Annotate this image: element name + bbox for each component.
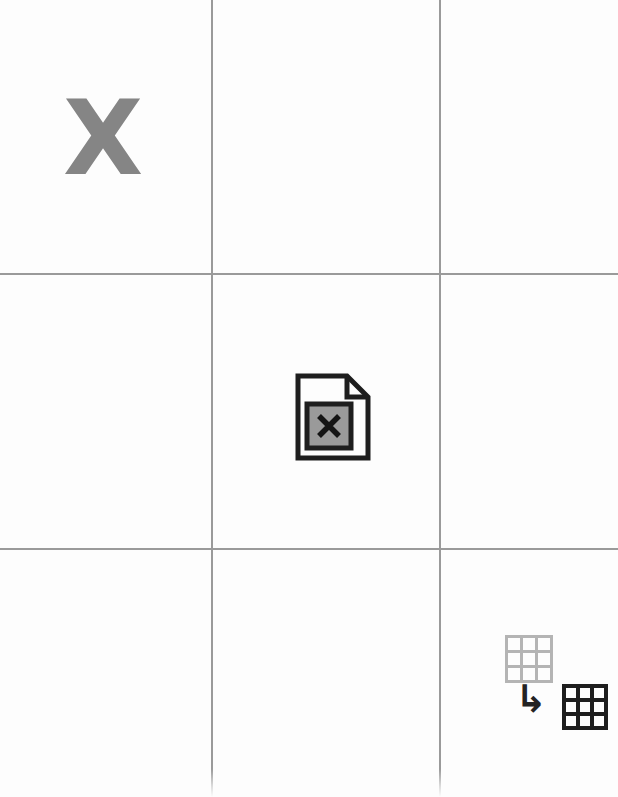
grid-3x3-light-icon xyxy=(505,635,553,683)
grid-transform-group: ↳ xyxy=(503,633,611,731)
grid-cell xyxy=(580,716,590,726)
arrow-down-right-icon: ↳ xyxy=(515,680,559,718)
grid-canvas: X ↳ xyxy=(0,0,618,797)
document-with-x-icon xyxy=(294,372,372,462)
grid-cell xyxy=(538,638,550,650)
grid-cell xyxy=(566,702,576,712)
grid-cell xyxy=(538,653,550,665)
grid-cell xyxy=(508,653,520,665)
grid-3x3-dark-icon xyxy=(562,684,608,730)
grid-cell xyxy=(594,702,604,712)
grid-cell xyxy=(508,638,520,650)
grid-line-vertical-2 xyxy=(439,0,441,797)
grid-cell xyxy=(523,638,535,650)
grid-cell xyxy=(580,702,590,712)
grid-cell xyxy=(594,688,604,698)
grid-line-horizontal-1 xyxy=(0,273,618,275)
grid-cell xyxy=(580,688,590,698)
grid-cell xyxy=(566,688,576,698)
grid-cell xyxy=(523,653,535,665)
grid-line-vertical-1 xyxy=(211,0,213,797)
grid-line-horizontal-2 xyxy=(0,548,618,550)
grid-cell xyxy=(594,716,604,726)
grid-cell xyxy=(566,716,576,726)
letter-x-glyph: X xyxy=(60,86,146,190)
